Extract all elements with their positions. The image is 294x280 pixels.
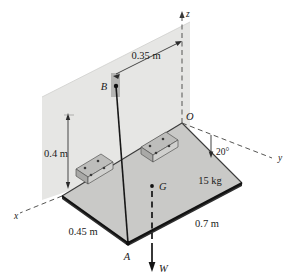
z-axis-arrowhead <box>179 11 184 18</box>
figure-container: z y x O A B G 0.35 m 0.4 m 0.45 m 0.7 m … <box>0 0 294 280</box>
weight-vector-arrowhead <box>149 262 156 272</box>
point-g-label: G <box>159 181 167 192</box>
point-a-marker <box>126 241 130 245</box>
mass-label: 15 kg <box>198 175 222 186</box>
point-a-label: A <box>123 251 131 262</box>
dim-04-label: 0.4 m <box>44 148 68 159</box>
angle-20-label: 20° <box>216 147 230 157</box>
weight-label: W <box>159 263 169 274</box>
point-b-marker <box>114 84 118 88</box>
statics-diagram: z y x O A B G 0.35 m 0.4 m 0.45 m 0.7 m … <box>0 0 294 280</box>
point-g-marker <box>150 184 154 188</box>
dim-045-label: 0.45 m <box>68 226 97 237</box>
point-o-label: O <box>186 111 194 122</box>
x-axis-label: x <box>13 211 19 221</box>
x-axis-line <box>20 196 62 213</box>
dim-07-label: 0.7 m <box>195 218 219 229</box>
point-b-label: B <box>101 81 108 92</box>
dim-035-label: 0.35 m <box>131 50 160 61</box>
y-axis-label: y <box>277 153 283 163</box>
z-axis-label: z <box>185 9 190 19</box>
